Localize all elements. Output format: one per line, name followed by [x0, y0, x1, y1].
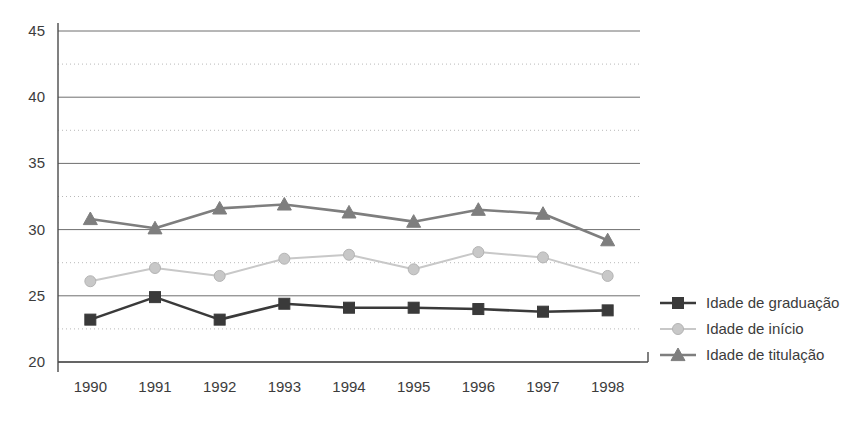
- y-tick-label: 25: [28, 287, 45, 304]
- data-point-marker-square: [344, 302, 355, 313]
- x-axis-tick-labels: 199019911992199319941995199619971998: [74, 378, 625, 395]
- legend: Idade de graduaçãoIdade de inícioIdade d…: [660, 294, 839, 363]
- x-tick-label: 1990: [74, 378, 107, 395]
- series-group: [83, 197, 614, 325]
- data-point-marker-circle: [673, 324, 684, 335]
- x-tick-label: 1998: [591, 378, 624, 395]
- data-point-marker-circle: [602, 270, 613, 281]
- data-point-marker-circle: [85, 276, 96, 287]
- data-point-marker-square: [279, 298, 290, 309]
- data-point-marker-circle: [344, 249, 355, 260]
- legend-item-2[interactable]: Idade de início: [660, 320, 804, 337]
- legend-item-label: Idade de graduação: [706, 294, 839, 311]
- data-point-marker-circle: [538, 252, 549, 263]
- x-tick-label: 1996: [462, 378, 495, 395]
- data-point-marker-circle: [279, 253, 290, 264]
- data-point-marker-square: [408, 302, 419, 313]
- data-point-marker-square: [214, 314, 225, 325]
- data-point-marker-square: [150, 292, 161, 303]
- y-tick-label: 20: [28, 353, 45, 370]
- legend-item-3[interactable]: Idade de titulação: [660, 346, 824, 363]
- series-3: [83, 197, 614, 245]
- data-point-marker-square: [602, 305, 613, 316]
- x-tick-label: 1993: [268, 378, 301, 395]
- y-tick-label: 40: [28, 88, 45, 105]
- y-tick-label: 30: [28, 221, 45, 238]
- series-2: [85, 247, 613, 287]
- line-chart: 202530354045 199019911992199319941995199…: [0, 0, 852, 431]
- y-tick-label: 35: [28, 154, 45, 171]
- legend-item-label: Idade de início: [706, 320, 804, 337]
- data-point-marker-square: [538, 306, 549, 317]
- data-point-marker-circle: [214, 270, 225, 281]
- x-tick-label: 1991: [138, 378, 171, 395]
- legend-item-1[interactable]: Idade de graduação: [660, 294, 839, 311]
- data-point-marker-square: [85, 314, 96, 325]
- data-point-marker-triangle: [83, 212, 97, 225]
- y-tick-label: 45: [28, 22, 45, 39]
- x-tick-label: 1997: [526, 378, 559, 395]
- chart-container: 202530354045 199019911992199319941995199…: [0, 0, 852, 431]
- x-axis: [58, 352, 648, 362]
- data-point-marker-circle: [408, 264, 419, 275]
- legend-item-label: Idade de titulação: [706, 346, 824, 363]
- series-1: [85, 292, 613, 326]
- x-tick-label: 1992: [203, 378, 236, 395]
- x-tick-label: 1994: [332, 378, 365, 395]
- x-tick-label: 1995: [397, 378, 430, 395]
- grid-minor-group: [58, 64, 640, 329]
- data-point-marker-square: [673, 298, 684, 309]
- y-axis-tick-labels: 202530354045: [28, 22, 45, 370]
- data-point-marker-circle: [473, 247, 484, 258]
- data-point-marker-circle: [150, 262, 161, 273]
- data-point-marker-square: [473, 304, 484, 315]
